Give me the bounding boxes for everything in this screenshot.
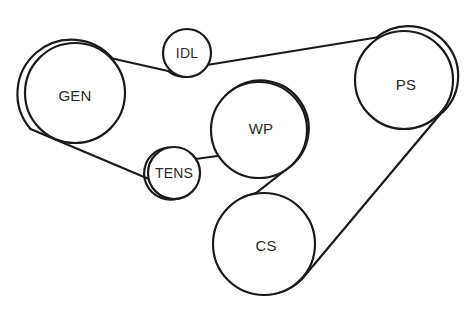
pulley-label-gen: GEN bbox=[58, 87, 91, 104]
pulley-label-tens: TENS bbox=[155, 165, 193, 181]
belt-segment-idl-to-ps bbox=[204, 38, 377, 66]
pulley-label-idl: IDL bbox=[176, 45, 198, 61]
pulley-group bbox=[25, 29, 453, 295]
pulley-label-cs: CS bbox=[255, 237, 276, 254]
belt-routing-diagram: GEN IDL TENS WP CS PS bbox=[0, 0, 476, 325]
pulley-label-ps: PS bbox=[396, 76, 416, 93]
belt-diagram-svg: GEN IDL TENS WP CS PS bbox=[0, 0, 476, 325]
pulley-label-wp: WP bbox=[249, 120, 274, 137]
belt-segment-ps-to-cs bbox=[302, 115, 440, 280]
belt-segment-gen-to-idl bbox=[113, 59, 169, 72]
